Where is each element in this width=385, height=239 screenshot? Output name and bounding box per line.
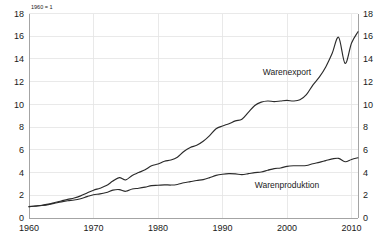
y-axis-tick-right: 6 [363,145,368,155]
y-axis-tick-right: 0 [363,213,368,223]
y-axis-tick-left: 14 [14,54,24,64]
y-axis-tick-left: 12 [14,77,24,87]
y-axis-tick-left: 2 [19,190,24,200]
index-base-note: 1960 = 1 [31,4,53,10]
y-axis-tick-right: 2 [363,190,368,200]
series-label-warenexport: Warenexport [263,67,312,77]
y-axis-tick-left: 10 [14,100,24,110]
x-axis-tick: 1990 [213,223,233,233]
x-axis-tick: 1970 [83,223,103,233]
line-chart: 0246810121416180246810121416181960197019… [0,0,385,239]
y-axis-tick-left: 16 [14,31,24,41]
chart-container: 0246810121416180246810121416181960197019… [0,0,385,239]
y-axis-tick-right: 16 [363,31,373,41]
y-axis-tick-right: 14 [363,54,373,64]
x-axis-tick: 2000 [277,223,297,233]
y-axis-tick-left: 8 [19,122,24,132]
y-axis-tick-left: 18 [14,9,24,19]
x-axis-tick: 1980 [148,223,168,233]
x-axis-tick: 2010 [342,223,362,233]
y-axis-tick-right: 10 [363,100,373,110]
y-axis-tick-left: 0 [19,213,24,223]
series-label-warenproduktion: Warenproduktion [255,180,320,190]
y-axis-tick-right: 8 [363,122,368,132]
y-axis-tick-left: 6 [19,145,24,155]
y-axis-tick-right: 12 [363,77,373,87]
x-axis-tick: 1960 [19,223,39,233]
y-axis-tick-left: 4 [19,168,24,178]
y-axis-tick-right: 18 [363,9,373,19]
y-axis-tick-right: 4 [363,168,368,178]
